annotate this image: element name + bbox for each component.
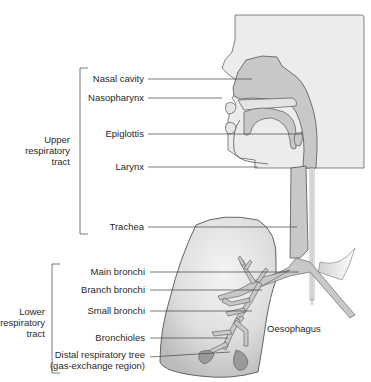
distal-tree-line-1: Distal respiratory tree (50, 349, 145, 360)
upper-line-3: tract (0, 156, 70, 167)
label-distal-respiratory-tree: Distal respiratory tree (gas-exchange re… (50, 349, 145, 371)
label-oesophagus: Oesophagus (267, 323, 321, 334)
label-small-bronchi: Small bronchi (87, 305, 145, 316)
lower-line-1: Lower (0, 306, 45, 317)
label-main-bronchi: Main bronchi (91, 266, 145, 277)
lower-line-3: tract (0, 328, 45, 339)
label-nasal-cavity: Nasal cavity (93, 73, 144, 84)
label-branch-bronchi: Branch bronchi (81, 284, 145, 295)
label-bronchioles: Bronchioles (95, 332, 145, 343)
label-nasopharynx: Nasopharynx (88, 92, 144, 103)
lower-respiratory-tract-label: Lower respiratory tract (0, 306, 45, 339)
label-larynx: Larynx (115, 161, 144, 172)
upper-line-2: respiratory (0, 145, 70, 156)
upper-respiratory-tract-label: Upper respiratory tract (0, 134, 70, 167)
group-brackets (52, 68, 88, 373)
trachea-oesophagus (290, 166, 314, 305)
label-trachea: Trachea (110, 221, 145, 232)
lower-line-2: respiratory (0, 317, 45, 328)
upper-line-1: Upper (0, 134, 70, 145)
respiratory-tract-diagram: Upper respiratory tract Lower respirator… (0, 0, 371, 382)
upper-tract-bracket (80, 68, 88, 234)
distal-tree-line-2: (gas-exchange region) (50, 360, 145, 371)
label-epiglottis: Epiglottis (105, 128, 144, 139)
lung (160, 217, 355, 377)
